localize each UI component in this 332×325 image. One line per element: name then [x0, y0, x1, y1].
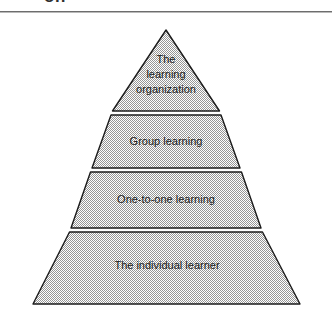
learning-pyramid-figure: on The learning organization Group learn…	[0, 0, 332, 325]
pyramid-tier-4-shape	[33, 232, 300, 304]
pyramid-tier-2-shape	[92, 115, 240, 168]
pyramid-tier-1-shape	[113, 30, 220, 111]
pyramid-diagram	[0, 0, 332, 325]
pyramid-tier-3-shape	[71, 172, 261, 228]
